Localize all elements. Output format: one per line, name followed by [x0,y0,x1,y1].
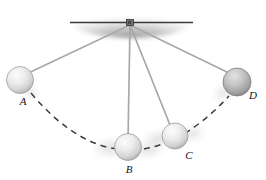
bob-B [115,134,142,161]
pivot-point [127,20,134,26]
pendulum-diagram: A B C D [0,0,266,180]
label-D: D [248,89,257,101]
bob-C [162,123,188,149]
string-to-C [130,25,172,130]
label-B: B [126,163,133,175]
bob-A [7,67,34,94]
string-to-B [128,25,130,141]
bob-D [223,68,251,96]
string-to-A [22,25,130,76]
label-C: C [185,149,193,161]
pendulum-strings [22,25,231,141]
diagram-canvas: A B C D [0,0,266,180]
label-A: A [19,95,27,107]
string-to-D [130,25,231,74]
